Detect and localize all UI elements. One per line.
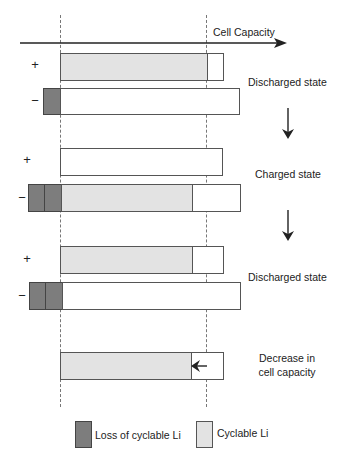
negative-electrode-label: − (16, 190, 28, 205)
positive-electrode-label: + (21, 251, 33, 266)
stage-label-discharged-1: Discharged state (248, 76, 327, 88)
capacity-axis-arrow (18, 36, 290, 50)
lost-li-block (43, 88, 61, 115)
positive-electrode-label: + (21, 152, 33, 167)
legend-swatch-loss-of-cyclable-li (75, 421, 92, 448)
negative-electrode-bar-3 (62, 282, 241, 310)
axis-label: Cell Capacity (213, 26, 275, 38)
cyclable-li-fill (61, 353, 192, 379)
negative-electrode-bar-2 (61, 184, 241, 212)
stage-label-decrease-line2: cell capacity (257, 366, 317, 378)
negative-electrode-label: − (29, 93, 41, 108)
stage-label-charged: Charged state (255, 168, 321, 180)
legend-label-cyclable-li: Cyclable Li (217, 427, 268, 439)
positive-electrode-bar-3 (60, 246, 224, 274)
cyclable-li-fill (62, 185, 193, 211)
negative-electrode-bar-1 (60, 88, 240, 115)
cyclable-li-fill (61, 247, 193, 273)
positive-electrode-bar-1 (60, 53, 224, 81)
positive-electrode-bar-2 (60, 148, 223, 176)
left-arrow-icon (190, 359, 208, 373)
lost-li-block (45, 282, 63, 310)
stage-label-decrease-line1: Decrease in (257, 352, 317, 364)
legend-label-loss-of-cyclable-li: Loss of cyclable Li (95, 429, 181, 441)
lost-li-block (28, 184, 45, 212)
cyclable-li-fill (61, 54, 208, 80)
down-arrow-icon (281, 210, 295, 242)
negative-electrode-label: − (16, 288, 28, 303)
lost-li-block (44, 184, 62, 212)
lost-li-block (29, 282, 46, 310)
stage-label-discharged-2: Discharged state (248, 271, 327, 283)
legend-swatch-cyclable-li (196, 421, 213, 448)
positive-electrode-label: + (29, 57, 41, 72)
down-arrow-icon (281, 108, 295, 140)
